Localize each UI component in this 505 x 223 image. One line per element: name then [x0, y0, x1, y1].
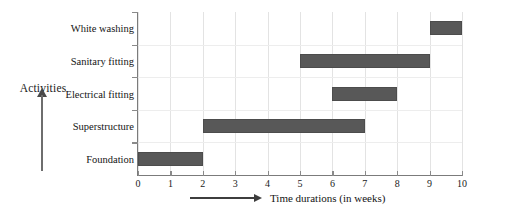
x-axis-tick-label: 10: [457, 178, 467, 189]
y-axis-tick: [132, 12, 138, 13]
gantt-bar[interactable]: [300, 54, 430, 68]
x-axis-arrow-head-icon: [254, 194, 262, 202]
x-axis-tick: [235, 171, 236, 176]
x-axis-tick-label: 4: [265, 178, 270, 189]
x-axis-tick: [462, 171, 463, 176]
x-axis-tick: [203, 171, 204, 176]
gantt-bar[interactable]: [430, 21, 462, 35]
x-axis-arrow-shaft-icon: [190, 197, 254, 199]
x-gridline: [300, 12, 301, 175]
x-axis-tick-label: 3: [233, 178, 238, 189]
category-label: Electrical fitting: [6, 88, 134, 99]
x-axis-tick-label: 2: [200, 178, 205, 189]
plot-area: [138, 12, 462, 175]
x-axis-title-label: Time durations (in weeks): [270, 192, 385, 204]
x-axis-tick-label: 0: [136, 178, 141, 189]
category-label: Sanitary fitting: [6, 55, 134, 66]
x-axis-tick-label: 9: [427, 178, 432, 189]
row-separator: [138, 142, 462, 143]
category-label: Superstructure: [6, 121, 134, 132]
x-gridline: [170, 12, 171, 175]
x-axis-tick-label: 7: [362, 178, 367, 189]
x-axis-tick: [300, 171, 301, 176]
x-axis-tick: [397, 171, 398, 176]
row-separator: [138, 110, 462, 111]
x-axis-tick-label: 5: [298, 178, 303, 189]
x-gridline: [203, 12, 204, 175]
x-gridline: [138, 12, 139, 175]
x-axis-tick: [365, 171, 366, 176]
row-separator: [138, 45, 462, 46]
x-axis-tick: [138, 171, 139, 176]
y-axis-tick: [132, 142, 138, 143]
y-axis-tick: [132, 110, 138, 111]
y-axis-category-labels: White washingSanitary fittingElectrical …: [0, 0, 134, 223]
x-gridline: [462, 12, 463, 175]
category-label: Foundation: [6, 153, 134, 164]
gantt-bar[interactable]: [138, 152, 203, 166]
x-gridline: [430, 12, 431, 175]
gantt-bar[interactable]: [332, 87, 397, 101]
x-axis-tick: [170, 171, 171, 176]
x-gridline: [397, 12, 398, 175]
y-axis-tick: [132, 77, 138, 78]
x-axis-tick: [430, 171, 431, 176]
x-axis-tick-label: 1: [168, 178, 173, 189]
x-gridline: [235, 12, 236, 175]
x-axis-title: Time durations (in weeks): [190, 192, 385, 204]
x-axis-tick: [332, 171, 333, 176]
x-axis-tick-label: 6: [330, 178, 335, 189]
gantt-chart-figure: Activities White washingSanitary fitting…: [0, 0, 505, 223]
category-label: White washing: [6, 23, 134, 34]
gantt-bar[interactable]: [203, 119, 365, 133]
x-axis-tick-label: 8: [395, 178, 400, 189]
row-separator: [138, 77, 462, 78]
x-gridline: [268, 12, 269, 175]
y-axis-tick: [132, 45, 138, 46]
x-axis-tick: [268, 171, 269, 176]
